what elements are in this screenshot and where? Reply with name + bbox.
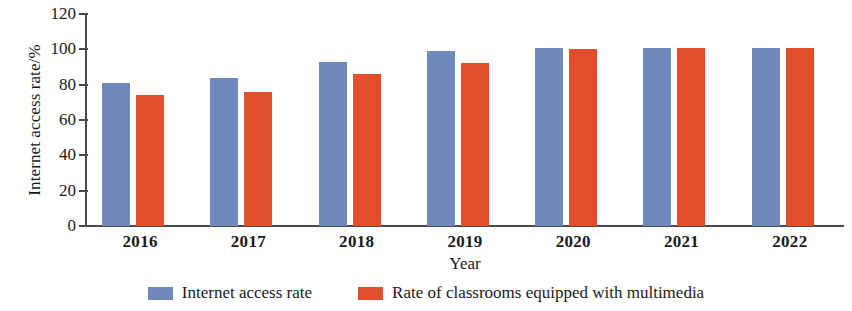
x-axis-tick-label: 2022 <box>736 232 844 252</box>
x-axis-title: Year <box>411 254 519 274</box>
x-axis-tick-label: 2020 <box>519 232 627 252</box>
bar-internet-access-rate <box>319 62 347 226</box>
legend-swatch-icon <box>148 287 173 300</box>
legend-item[interactable]: Rate of classrooms equipped with multime… <box>358 283 704 303</box>
y-axis-tick-mark <box>79 13 88 15</box>
y-axis-tick-mark <box>79 154 88 156</box>
bar-multimedia-classroom-rate <box>136 95 164 226</box>
bar-group <box>194 14 302 226</box>
bar-group <box>627 14 735 226</box>
x-axis-tick-label: 2016 <box>86 232 194 252</box>
plot-area <box>86 14 844 226</box>
x-axis-tick-label: 2021 <box>628 232 736 252</box>
bar-chart: Internet access rate/% 120100806040200 Y… <box>0 0 852 311</box>
bar-multimedia-classroom-rate <box>569 49 597 226</box>
x-axis-tick-label: 2018 <box>303 232 411 252</box>
bar-internet-access-rate <box>102 83 130 226</box>
y-axis-tick-label: 100 <box>6 40 76 57</box>
y-axis-tick-label: 40 <box>6 146 76 163</box>
bar-group <box>411 14 519 226</box>
chart-legend: Internet access rateRate of classrooms e… <box>0 283 852 303</box>
y-axis-tick-mark <box>79 84 88 86</box>
bar-internet-access-rate <box>643 48 671 226</box>
bar-multimedia-classroom-rate <box>461 63 489 226</box>
bar-group <box>86 14 194 226</box>
legend-swatch-icon <box>358 287 383 300</box>
x-axis-tick-label: 2019 <box>411 232 519 252</box>
bar-group <box>736 14 844 226</box>
y-axis-tick-label: 0 <box>6 217 76 234</box>
bar-multimedia-classroom-rate <box>244 92 272 226</box>
y-axis-tick-labels: 120100806040200 <box>0 0 76 311</box>
y-axis-tick-mark <box>79 225 88 227</box>
bar-internet-access-rate <box>427 51 455 226</box>
y-axis-tick-label: 60 <box>6 111 76 128</box>
bar-group <box>519 14 627 226</box>
bar-multimedia-classroom-rate <box>353 74 381 226</box>
y-axis-tick-mark <box>79 48 88 50</box>
y-axis-tick-label: 80 <box>6 76 76 93</box>
legend-label: Rate of classrooms equipped with multime… <box>392 283 704 303</box>
y-axis-tick-label: 20 <box>6 182 76 199</box>
y-axis-tick-label: 120 <box>6 5 76 22</box>
legend-label: Internet access rate <box>182 283 312 303</box>
bar-internet-access-rate <box>535 48 563 226</box>
x-axis-tick-label: 2017 <box>194 232 302 252</box>
legend-item[interactable]: Internet access rate <box>148 283 312 303</box>
bar-multimedia-classroom-rate <box>677 48 705 226</box>
bar-internet-access-rate <box>752 48 780 226</box>
bar-internet-access-rate <box>210 78 238 226</box>
bar-multimedia-classroom-rate <box>786 48 814 226</box>
bar-group <box>303 14 411 226</box>
y-axis-tick-mark <box>79 119 88 121</box>
y-axis-tick-mark <box>79 190 88 192</box>
